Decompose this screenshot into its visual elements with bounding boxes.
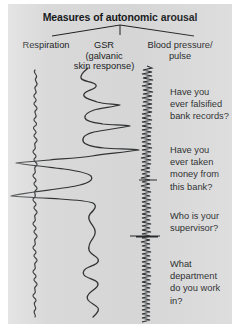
question-text-0: Have you ever falsified bank records?	[170, 86, 232, 123]
question-text-2: Who is your supervisor?	[170, 210, 232, 234]
trace-gsr	[11, 68, 139, 317]
trace-blood-pressure	[141, 66, 153, 322]
question-text-1: Have you ever taken money from this bank…	[170, 144, 232, 193]
trace-respiration	[33, 70, 37, 317]
chart-panel: Measures of autonomic arousal Respiratio…	[8, 4, 232, 324]
question-text-3: What department do you work in?	[170, 258, 232, 307]
trace-blood-pressure-spikes	[130, 180, 160, 237]
polygraph-figure: Measures of autonomic arousal Respiratio…	[0, 0, 239, 336]
